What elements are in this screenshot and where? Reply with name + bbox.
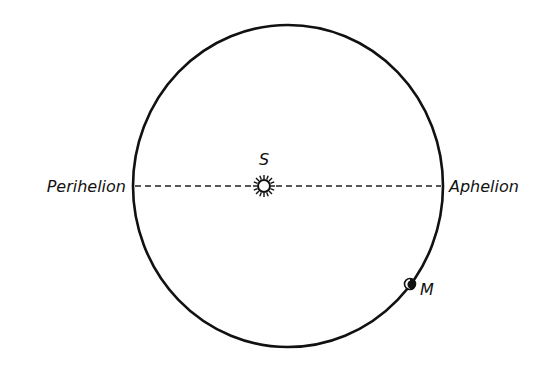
perihelion-label: Perihelion [47, 177, 126, 196]
sun-label: S [259, 150, 269, 169]
aphelion-label: Aphelion [448, 177, 519, 196]
planet-dot-icon [405, 279, 416, 290]
sun-icon [253, 175, 275, 197]
orbit-diagram: S Perihelion Aphelion M [0, 0, 551, 369]
planet-label: M [420, 280, 434, 299]
